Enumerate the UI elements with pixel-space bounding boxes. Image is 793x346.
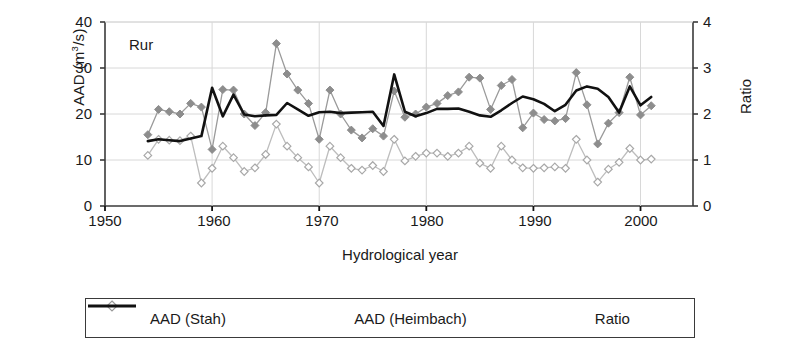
plot-canvas [0, 0, 793, 346]
legend-label-stah: AAD (Stah) [150, 310, 226, 327]
series-aad-heimbach- [144, 120, 655, 186]
series-ratio [148, 74, 651, 141]
legend-item-stah[interactable]: AAD (Stah) [150, 310, 226, 327]
chart-figure: AAD (m3/s) Ratio Rur Hydrological year 4… [0, 0, 793, 346]
legend-marker-line-icon [86, 299, 138, 313]
legend-item-heimbach[interactable]: AAD (Heimbach) [354, 310, 467, 327]
legend-item-ratio[interactable]: Ratio [595, 310, 630, 327]
chart-legend: AAD (Stah) AAD (Heimbach) Ratio [85, 298, 695, 338]
legend-label-heimbach: AAD (Heimbach) [354, 310, 467, 327]
legend-label-ratio: Ratio [595, 310, 630, 327]
